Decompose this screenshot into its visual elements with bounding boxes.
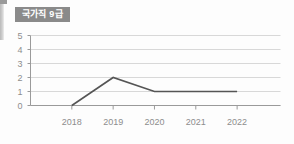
x-axis-tick-label: 2019	[103, 118, 123, 127]
y-axis-tick-label: 2	[7, 73, 23, 82]
chart-figure: 국가직 9급 012345 20182019202020212022	[0, 0, 294, 144]
y-axis-tick-label: 1	[7, 87, 23, 96]
y-axis-tick-label: 5	[7, 31, 23, 40]
y-axis-tick-label: 4	[7, 45, 23, 54]
x-axis-tick-label: 2020	[144, 118, 164, 127]
x-axis-tick-label: 2018	[62, 118, 82, 127]
plot-area: 012345 20182019202020212022	[0, 0, 294, 144]
x-axis-tick-label: 2021	[186, 118, 206, 127]
y-axis-tick-label: 3	[7, 59, 23, 68]
xtick-marks-group	[72, 106, 237, 110]
y-axis-tick-label: 0	[7, 101, 23, 110]
gridlines-group	[31, 36, 281, 106]
x-axis-tick-label: 2022	[227, 118, 247, 127]
axes-group	[31, 36, 281, 106]
